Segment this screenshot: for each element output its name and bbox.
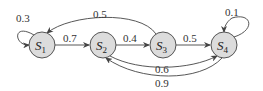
edge-label-s4-s4: 0.1 <box>225 6 239 18</box>
node-s4: S4 <box>211 32 237 58</box>
node-s3: S3 <box>150 32 176 58</box>
edge-label-s1-s2: 0.7 <box>63 32 77 44</box>
edge-label-s2-s4: 0.6 <box>155 63 169 75</box>
node-s2: S2 <box>90 32 116 58</box>
edge-label-s3-s4: 0.5 <box>183 32 197 44</box>
edge-label-s4-s2: 0.9 <box>155 77 169 89</box>
node-s1: S1 <box>29 32 55 58</box>
edge-label-s1-s1: 0.3 <box>16 12 30 24</box>
edge-label-s2-s3: 0.4 <box>123 32 137 44</box>
edge-label-s3-s1: 0.5 <box>93 8 107 20</box>
markov-chain-diagram: 0.3 0.7 0.4 0.5 0.5 0.1 0.6 0.9 S1 S2 S3… <box>0 0 263 91</box>
